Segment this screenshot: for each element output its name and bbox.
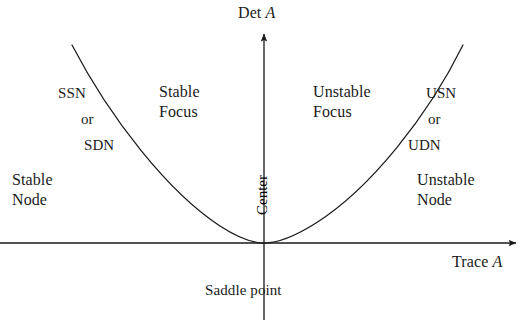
center-axis-label: Center: [254, 175, 271, 215]
boundary-label-ssn: SSN: [58, 84, 86, 102]
det-axis-label: Det A: [238, 3, 275, 23]
unstable-focus-line-2: Focus: [313, 102, 371, 122]
boundary-label-usn: USN: [426, 84, 456, 102]
trace-determinant-figure: Det A Trace A Center Saddle point Stable…: [0, 0, 532, 330]
stable-focus-line-2: Focus: [159, 102, 200, 122]
boundary-label-sdn: SDN: [84, 136, 114, 154]
stable-node-line-2: Node: [12, 190, 53, 210]
stable-focus-line-1: Stable: [159, 82, 200, 102]
region-label-unstable-focus: Unstable Focus: [313, 82, 371, 121]
region-label-stable-node: Stable Node: [12, 170, 53, 209]
trace-axis-label-text: Trace: [452, 253, 492, 270]
boundary-label-left-or: or: [81, 110, 94, 128]
boundary-label-right-or: or: [428, 110, 441, 128]
trace-axis-label-italic: A: [492, 253, 502, 270]
unstable-node-line-2: Node: [417, 190, 475, 210]
unstable-focus-line-1: Unstable: [313, 82, 371, 102]
boundary-label-udn: UDN: [408, 136, 441, 154]
det-axis-label-text: Det: [238, 4, 266, 21]
det-axis-label-italic: A: [266, 4, 276, 21]
trace-axis-label: Trace A: [452, 252, 502, 272]
region-label-unstable-node: Unstable Node: [417, 170, 475, 209]
unstable-node-line-1: Unstable: [417, 170, 475, 190]
stable-node-line-1: Stable: [12, 170, 53, 190]
saddle-point-label: Saddle point: [205, 281, 282, 299]
region-label-stable-focus: Stable Focus: [159, 82, 200, 121]
